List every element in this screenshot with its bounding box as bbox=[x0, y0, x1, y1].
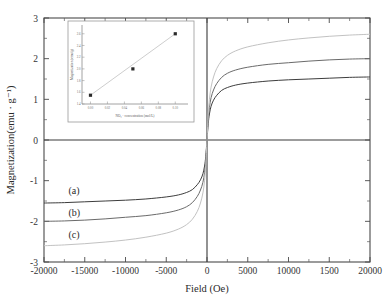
inset-y-axis-title: Magnetization (emu/g) bbox=[70, 49, 74, 80]
y-tick-label: 1 bbox=[33, 95, 38, 105]
inset-data-point bbox=[131, 67, 134, 70]
inset-data-point bbox=[174, 32, 177, 35]
inset-y-tick-label: 1.8 bbox=[77, 79, 81, 83]
inset-y-tick-label: 2.2 bbox=[77, 55, 81, 59]
inset-y-tick-label: 2.0 bbox=[77, 67, 81, 71]
inset-data-point bbox=[89, 94, 92, 97]
inset-plot: 0.000.020.040.060.080.101.41.61.82.02.22… bbox=[68, 21, 194, 122]
y-tick-label: 3 bbox=[33, 14, 38, 24]
x-tick-label: 10000 bbox=[277, 266, 301, 276]
x-tick-label: 20000 bbox=[358, 266, 382, 276]
y-axis-title: Magnetization(emu · g⁻¹) bbox=[5, 85, 17, 194]
inset-y-tick-label: 1.4 bbox=[77, 102, 81, 106]
x-axis-title: Field (Oe) bbox=[185, 283, 229, 295]
x-tick-label: 0 bbox=[205, 266, 210, 276]
inset-x-tick-label: 0.02 bbox=[105, 106, 111, 110]
inset-y-tick-label: 2.6 bbox=[77, 32, 81, 36]
y-tick-label: 0 bbox=[33, 136, 38, 146]
x-tick-label: -20000 bbox=[31, 266, 58, 276]
magnetization-chart-svg: -20000-15000-10000-500005000100001500200… bbox=[0, 0, 388, 305]
x-tick-label: -15000 bbox=[71, 266, 98, 276]
x-tick-label: -10000 bbox=[112, 266, 139, 276]
curve-annotation-c: (c) bbox=[68, 229, 79, 241]
inset-y-tick-label: 1.6 bbox=[77, 90, 81, 94]
x-tick-label: 1500 bbox=[320, 266, 339, 276]
y-tick-label: -3 bbox=[30, 258, 38, 268]
inset-x-tick-label: 0.06 bbox=[139, 106, 145, 110]
inset-x-tick-label: 0.00 bbox=[88, 106, 94, 110]
magnetization-hysteresis-figure: -20000-15000-10000-500005000100001500200… bbox=[0, 0, 388, 305]
inset-x-tick-label: 0.08 bbox=[156, 106, 162, 110]
y-tick-label: -2 bbox=[30, 217, 38, 227]
inset-x-axis-title: NO₃⁻ concentration (mol/L) bbox=[116, 114, 155, 118]
y-tick-label: 2 bbox=[33, 54, 38, 64]
x-tick-label: 5000 bbox=[238, 266, 257, 276]
x-tick-label: -5000 bbox=[155, 266, 177, 276]
inset-y-tick-label: 2.4 bbox=[77, 44, 81, 48]
inset-x-tick-label: 0.10 bbox=[173, 106, 179, 110]
inset-x-tick-label: 0.04 bbox=[122, 106, 128, 110]
y-tick-label: -1 bbox=[30, 176, 38, 186]
curve-annotation-a: (a) bbox=[68, 185, 79, 197]
curve-annotation-b: (b) bbox=[68, 207, 80, 219]
